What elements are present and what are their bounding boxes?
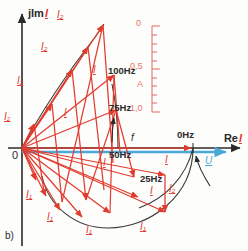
axis-symbol-current-re: I bbox=[239, 132, 242, 144]
phasor-label-I1-c: I1 bbox=[86, 225, 92, 236]
phasor-label-I2-c: I2 bbox=[17, 76, 23, 87]
phasor-diagram-svg bbox=[0, 0, 248, 251]
axis-label-real: ReI bbox=[224, 133, 242, 144]
phasor-fan-upper bbox=[22, 25, 116, 148]
origin-label: 0 bbox=[12, 150, 18, 161]
scale-tick-0: 0 bbox=[136, 19, 141, 28]
axis-label-imaginary: jImI bbox=[28, 8, 48, 19]
phasor-label-I-b: I bbox=[64, 108, 67, 118]
voltage-label-U: U bbox=[205, 156, 212, 166]
figure-canvas: jImI ReI 0 U b) 0Hz 25Hz 50Hz 75Hz 100Hz… bbox=[0, 0, 248, 251]
phasor-label-I-d: I bbox=[150, 186, 153, 196]
freq-label-75hz: 75Hz bbox=[109, 103, 131, 113]
scale-unit-A: A bbox=[137, 80, 143, 89]
phasor-label-I-a: I bbox=[93, 65, 96, 75]
phasor-label-I2-e: I2 bbox=[169, 184, 175, 195]
phasor-label-I1-a: I1 bbox=[26, 190, 32, 201]
phasor-label-I2-b: I2 bbox=[41, 42, 47, 53]
scale-tick-10: 1,0 bbox=[130, 104, 143, 113]
figure-caption: b) bbox=[5, 231, 14, 241]
phasor-label-I2-d: I2 bbox=[4, 112, 10, 123]
amplitude-scale bbox=[152, 26, 160, 112]
freq-label-25hz: 25Hz bbox=[140, 174, 162, 184]
phasor-label-I1-b: I1 bbox=[47, 212, 53, 223]
axis-symbol-current-im: I bbox=[45, 7, 48, 19]
phasor-label-I2-a: I2 bbox=[57, 10, 63, 21]
freq-label-50hz: 50Hz bbox=[109, 150, 131, 160]
freq-label-0hz: 0Hz bbox=[177, 130, 194, 140]
scale-tick-05: 0,5 bbox=[130, 62, 143, 71]
freq-direction-label: f bbox=[131, 133, 134, 143]
phasor-label-I-c: I bbox=[103, 158, 106, 168]
phasor-label-I-e: I bbox=[165, 155, 168, 165]
phasor-label-I1-d: I1 bbox=[140, 222, 146, 233]
